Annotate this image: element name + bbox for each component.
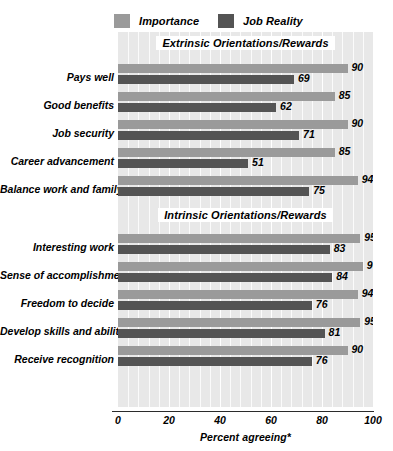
category-label: Receive recognition bbox=[0, 353, 114, 365]
legend-swatch-job-reality bbox=[218, 14, 234, 28]
bar-value-importance: 95 bbox=[364, 233, 373, 242]
bar-value-job-reality: 62 bbox=[280, 102, 292, 111]
bar-value-importance: 85 bbox=[339, 91, 351, 100]
section-banner-label: Intrinsic Orientations/Rewards bbox=[158, 208, 333, 222]
bar-value-job-reality: 76 bbox=[316, 300, 328, 309]
bar-value-importance: 90 bbox=[352, 63, 364, 72]
bar-job-reality bbox=[118, 159, 248, 168]
category-label: Good benefits bbox=[0, 99, 114, 111]
legend-item-job-reality: Job Reality bbox=[218, 12, 303, 30]
bar-value-importance: 85 bbox=[339, 147, 351, 156]
bar-value-importance: 94 bbox=[362, 175, 373, 184]
bar-job-reality bbox=[118, 245, 330, 254]
category-label: Job security bbox=[0, 127, 114, 139]
bar-importance bbox=[118, 318, 360, 327]
section-banner: Extrinsic Orientations/Rewards bbox=[118, 36, 373, 50]
bar-job-reality bbox=[118, 75, 294, 84]
section-banner: Intrinsic Orientations/Rewards bbox=[118, 208, 373, 222]
bar-job-reality bbox=[118, 329, 325, 338]
bar-value-importance: 90 bbox=[352, 119, 364, 128]
bar-value-job-reality: 51 bbox=[252, 158, 264, 167]
bar-job-reality bbox=[118, 301, 312, 310]
chart-legend: Importance Job Reality bbox=[0, 12, 393, 32]
bar-value-importance: 94 bbox=[362, 289, 373, 298]
x-axis-tick-label: 80 bbox=[316, 414, 328, 426]
bar-value-job-reality: 81 bbox=[329, 328, 341, 337]
bar-importance bbox=[118, 92, 335, 101]
legend-label-importance: Importance bbox=[139, 15, 199, 27]
category-label: Sense of accomplishment bbox=[0, 269, 114, 281]
x-axis-line bbox=[112, 411, 374, 412]
bar-job-reality bbox=[118, 103, 276, 112]
legend-label-job-reality: Job Reality bbox=[243, 15, 303, 27]
x-axis-tick-label: 40 bbox=[214, 414, 226, 426]
category-label: Develop skills and abilities bbox=[0, 325, 114, 337]
bar-value-job-reality: 76 bbox=[316, 356, 328, 365]
section-banner-label: Extrinsic Orientations/Rewards bbox=[156, 36, 334, 50]
category-label: Career advancement bbox=[0, 155, 114, 167]
chart-plot-area: 9069856290718551947595839684947695819076… bbox=[118, 32, 373, 407]
bar-job-reality bbox=[118, 187, 309, 196]
bar-value-job-reality: 71 bbox=[303, 130, 315, 139]
bar-job-reality bbox=[118, 131, 299, 140]
bar-value-job-reality: 83 bbox=[334, 244, 346, 253]
bar-job-reality bbox=[118, 357, 312, 366]
bar-value-importance: 96 bbox=[367, 261, 373, 270]
x-axis-tick-label: 0 bbox=[115, 414, 121, 426]
bar-value-importance: 90 bbox=[352, 345, 364, 354]
category-axis-labels: Pays wellGood benefitsJob securityCareer… bbox=[0, 32, 114, 407]
x-axis-tick-label: 20 bbox=[163, 414, 175, 426]
legend-swatch-importance bbox=[114, 14, 130, 28]
category-label: Interesting work bbox=[0, 241, 114, 253]
bar-job-reality bbox=[118, 273, 332, 282]
x-axis-tick-label: 100 bbox=[364, 414, 382, 426]
category-label: Balance work and family bbox=[0, 183, 114, 195]
bar-importance bbox=[118, 148, 335, 157]
bar-value-job-reality: 84 bbox=[336, 272, 348, 281]
legend-item-importance: Importance bbox=[114, 12, 199, 30]
x-axis-title: Percent agreeing* bbox=[118, 431, 373, 443]
x-axis-ticks: 020406080100 bbox=[118, 414, 373, 430]
bar-importance bbox=[118, 262, 363, 271]
bar-importance bbox=[118, 346, 348, 355]
bar-value-importance: 95 bbox=[364, 317, 373, 326]
x-axis-tick-label: 60 bbox=[265, 414, 277, 426]
category-label: Freedom to decide bbox=[0, 297, 114, 309]
bar-importance bbox=[118, 234, 360, 243]
bar-value-job-reality: 75 bbox=[313, 186, 325, 195]
bar-value-job-reality: 69 bbox=[298, 74, 310, 83]
category-label: Pays well bbox=[0, 71, 114, 83]
bar-importance bbox=[118, 64, 348, 73]
